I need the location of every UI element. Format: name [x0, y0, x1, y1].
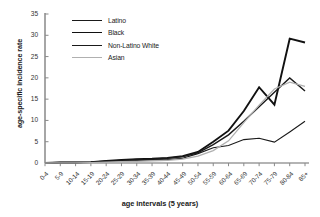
legend-item-non-latino-white[interactable]: Non-Latino White	[72, 39, 159, 52]
legend-label: Black	[108, 29, 124, 36]
legend-label: Asian	[108, 54, 125, 61]
plot-area	[0, 0, 320, 217]
legend-item-asian[interactable]: Asian	[72, 52, 159, 65]
legend-swatch-icon	[72, 20, 102, 21]
legend-label: Latino	[108, 17, 126, 24]
chart-container: age-specific incidence rate age interval…	[0, 0, 320, 217]
legend-item-black[interactable]: Black	[72, 27, 159, 40]
legend-label: Non-Latino White	[108, 42, 159, 49]
legend-item-latino[interactable]: Latino	[72, 14, 159, 27]
legend-swatch-icon	[72, 57, 102, 58]
series-line-non-latino-white	[45, 78, 305, 163]
legend-swatch-icon	[72, 45, 102, 46]
chart-legend: LatinoBlackNon-Latino WhiteAsian	[72, 14, 159, 64]
legend-swatch-icon	[72, 32, 102, 33]
